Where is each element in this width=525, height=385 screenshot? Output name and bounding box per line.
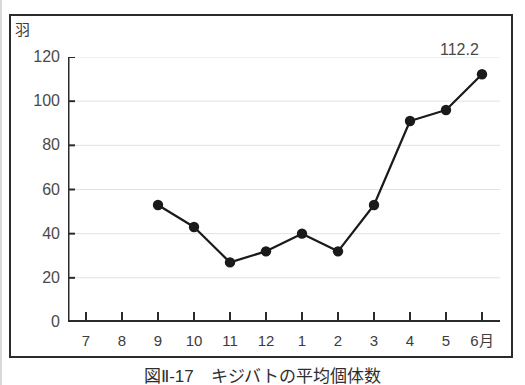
figure-caption: 図Ⅱ-17 キジバトの平均個体数 [0, 368, 525, 385]
x-axis-tick-label: 10 [186, 333, 203, 348]
data-point-marker [153, 200, 163, 210]
x-axis-tick-label: 2 [334, 333, 342, 348]
x-axis-tick-label: 5 [442, 333, 450, 348]
y-axis-tick-label: 100 [33, 93, 60, 109]
x-axis-ticks [86, 312, 482, 320]
y-axis-tick-label: 0 [51, 314, 60, 330]
x-axis-tick-labels: 789101112123456月 [68, 333, 500, 357]
plot-area [68, 57, 500, 322]
x-axis-tick-label: 6月 [470, 333, 493, 348]
line-chart-svg [68, 57, 500, 322]
y-axis-tick-label: 120 [33, 49, 60, 65]
x-axis-tick-label: 4 [406, 333, 414, 348]
data-point-marker [261, 246, 271, 256]
x-axis-tick-label: 9 [154, 333, 162, 348]
data-point-marker [477, 69, 487, 79]
data-series-points [153, 69, 487, 268]
x-axis-tick-label: 3 [370, 333, 378, 348]
x-axis-tick-label: 8 [118, 333, 126, 348]
data-point-marker [333, 246, 343, 256]
x-axis-tick-label: 1 [298, 333, 306, 348]
data-point-marker [441, 105, 451, 115]
y-axis-tick-labels: 020406080100120 [8, 0, 60, 385]
y-axis-tick-label: 60 [42, 182, 60, 198]
data-point-marker [369, 200, 379, 210]
data-point-marker [189, 222, 199, 232]
data-point-marker [225, 257, 235, 267]
data-point-marker [405, 116, 415, 126]
x-axis-tick-label: 11 [222, 333, 238, 348]
scan-edge [0, 0, 2, 385]
y-axis-tick-label: 40 [42, 226, 60, 242]
y-axis-tick-label: 80 [42, 137, 60, 153]
x-axis-tick-label: 7 [82, 333, 90, 348]
data-point-marker [297, 228, 307, 238]
figure-root: 羽 020406080100120 789101112123456月 112.2… [0, 0, 525, 385]
y-axis-tick-label: 20 [42, 270, 60, 286]
gridlines [68, 57, 500, 278]
x-axis-tick-label: 12 [258, 333, 275, 348]
data-point-value-label: 112.2 [440, 42, 479, 58]
